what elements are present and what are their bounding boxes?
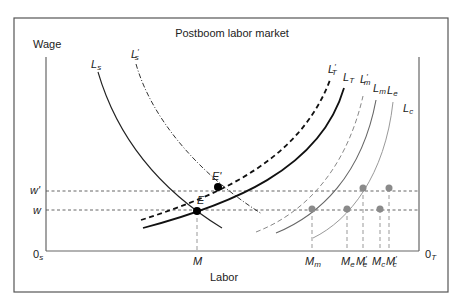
Me-prime-point xyxy=(360,185,367,192)
diagram-title: Postboom labor market xyxy=(175,27,289,39)
Me-prime-label: M′e xyxy=(356,254,368,269)
Le-curve xyxy=(313,102,393,238)
E-prime-point xyxy=(214,183,222,191)
LT-prime-label: L′T xyxy=(328,62,338,77)
wage-axis-label: Wage xyxy=(33,38,61,50)
origin-right-label: 0T xyxy=(425,248,437,262)
E-prime-label: E' xyxy=(212,170,222,182)
Mm-point xyxy=(309,206,316,213)
E-point xyxy=(193,207,201,215)
labor-market-diagram: Postboom labor market Wage Labor 0s 0T w… xyxy=(0,0,462,306)
Mc-prime-point xyxy=(386,185,393,192)
Lc-label: Lc xyxy=(403,102,413,116)
Lm-curve xyxy=(276,100,376,233)
origin-left-label: 0s xyxy=(33,248,43,262)
Ls-prime-curve xyxy=(136,64,262,214)
Mm-label: Mm xyxy=(305,255,321,269)
Me-label: Me xyxy=(341,255,355,269)
LT-label: LT xyxy=(343,71,355,85)
w-prime-label: w' xyxy=(30,184,41,196)
diagram-canvas: Postboom labor market Wage Labor 0s 0T w… xyxy=(0,0,462,306)
M-label: M xyxy=(193,255,203,267)
Lm-label: Lm xyxy=(373,82,386,96)
Mc-label: Mc xyxy=(372,255,385,269)
Me-point xyxy=(344,206,351,213)
E-label: E xyxy=(197,194,205,206)
Le-label: Le xyxy=(387,84,398,98)
Ls-prime-label: L′s xyxy=(131,47,139,62)
LT-prime-curve xyxy=(141,80,330,220)
Ls-label: Ls xyxy=(91,58,101,72)
Lm-prime-label: L′m xyxy=(360,72,371,87)
Mc-prime-label: M′c xyxy=(386,254,397,269)
labor-axis-label: Labor xyxy=(210,271,238,283)
w-label: w xyxy=(33,204,42,216)
Mc-point xyxy=(377,206,384,213)
